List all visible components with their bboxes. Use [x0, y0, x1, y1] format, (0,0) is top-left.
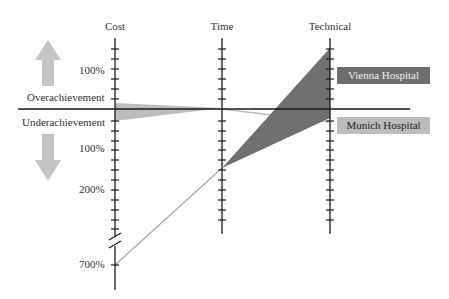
chart-canvas — [0, 0, 449, 299]
zone-label-under: Underachievement — [22, 116, 105, 128]
vienna-line — [115, 168, 222, 265]
axis-title-technical: Technical — [309, 20, 352, 32]
tick-label-700-down: 700% — [79, 258, 105, 270]
tick-label-100-down: 100% — [79, 142, 105, 154]
tick-label-100-up: 100% — [79, 64, 105, 76]
zone-label-over: Overachievement — [27, 91, 105, 103]
tick-label-200-down: 200% — [79, 183, 105, 195]
time-axis — [218, 38, 226, 234]
munich-area — [115, 103, 222, 121]
cost-axis — [109, 38, 121, 290]
up-arrow-icon — [35, 40, 61, 86]
vienna-area — [222, 48, 330, 168]
axis-title-cost: Cost — [105, 20, 125, 32]
legend-vienna: Vienna Hospital — [337, 67, 430, 84]
axis-title-time: Time — [211, 20, 234, 32]
down-arrow-icon — [35, 134, 61, 181]
legend-munich: Munich Hospital — [337, 117, 430, 134]
